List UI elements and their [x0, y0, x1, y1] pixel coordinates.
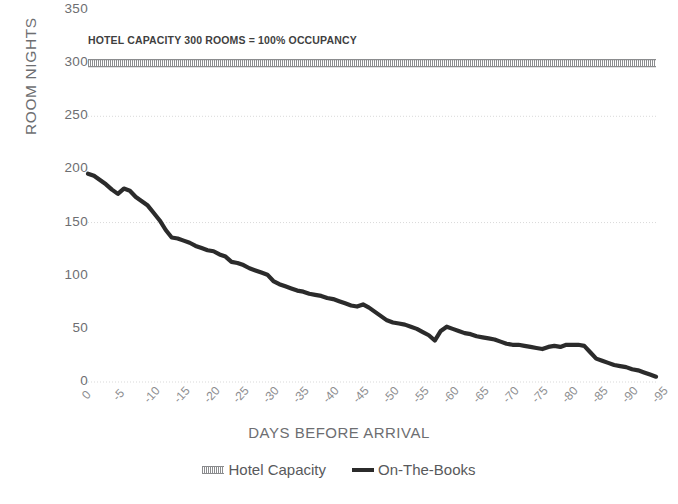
x-axis-title: DAYS BEFORE ARRIVAL	[0, 424, 678, 441]
x-tick-label: -45	[350, 384, 372, 406]
legend-label-hotel-capacity: Hotel Capacity	[228, 462, 326, 477]
x-tick-label: -55	[410, 384, 432, 406]
y-tick-label: 150	[42, 214, 88, 229]
y-tick-label: 100	[42, 267, 88, 282]
y-tick-label: 300	[42, 54, 88, 69]
x-tick-label: -80	[559, 384, 581, 406]
capacity-band-fill	[88, 60, 656, 67]
x-tick-label: -30	[260, 384, 282, 406]
x-tick-label: -90	[619, 384, 641, 406]
on-the-books-series-line	[88, 174, 656, 377]
x-tick-label: -65	[469, 384, 491, 406]
y-tick-label: 350	[42, 1, 88, 16]
x-tick-label: -25	[230, 384, 252, 406]
capacity-line-swatch-icon	[202, 466, 224, 474]
x-tick-label: -75	[529, 384, 551, 406]
x-tick-label: -85	[589, 384, 611, 406]
plot-svg	[88, 10, 656, 382]
x-tick-label: -95	[649, 384, 671, 406]
legend-item-hotel-capacity[interactable]: Hotel Capacity	[202, 462, 326, 477]
x-tick-label: -70	[499, 384, 521, 406]
x-tick-label: -60	[439, 384, 461, 406]
y-tick-label: 0	[42, 373, 88, 388]
x-tick-label: -5	[110, 386, 128, 403]
legend-label-on-the-books: On-The-Books	[378, 462, 476, 477]
x-axis-tick-labels: 0-5-10-15-20-25-30-35-40-45-50-55-60-65-…	[88, 386, 656, 422]
chart-container: ROOM NIGHTS 350300250200150100500 HOTEL …	[0, 0, 678, 504]
x-tick-label: -10	[141, 384, 163, 406]
y-tick-label: 50	[42, 320, 88, 335]
x-tick-label: -40	[320, 384, 342, 406]
x-tick-label: -50	[380, 384, 402, 406]
plot-area	[88, 10, 656, 382]
y-tick-label: 200	[42, 160, 88, 175]
y-tick-label: 250	[42, 107, 88, 122]
legend-item-on-the-books[interactable]: On-The-Books	[352, 462, 476, 477]
chart-legend: Hotel Capacity On-The-Books	[0, 462, 678, 477]
x-tick-label: -20	[200, 384, 222, 406]
x-tick-label: -15	[170, 384, 192, 406]
capacity-series-line	[88, 60, 656, 67]
gridlines	[88, 116, 656, 382]
x-tick-label: -35	[290, 384, 312, 406]
books-line-swatch-icon	[352, 468, 374, 472]
y-axis-title: ROOM NIGHTS	[22, 0, 40, 135]
